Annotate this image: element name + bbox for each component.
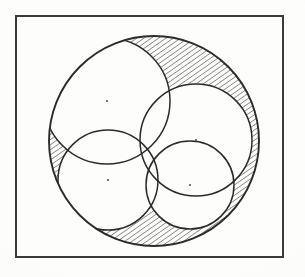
center-dot-lower-left	[107, 179, 109, 181]
geometric-diagram	[0, 0, 305, 277]
center-dot-lower-right	[189, 184, 191, 186]
center-dot-upper-right	[195, 139, 197, 141]
center-dot-upper-left	[106, 100, 108, 102]
figure-root	[0, 0, 305, 277]
